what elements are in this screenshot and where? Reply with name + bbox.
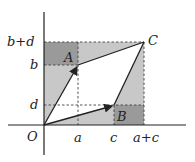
label-B: B	[116, 109, 127, 124]
label-C: C	[148, 33, 158, 48]
y-tick-d: d	[30, 97, 38, 112]
parallelogram-diagram: A B C O b+d b d a c a+c	[0, 0, 195, 162]
y-tick-b-plus-d: b+d	[7, 34, 35, 49]
x-tick-c: c	[110, 130, 118, 145]
label-O: O	[27, 129, 38, 144]
x-tick-a: a	[74, 130, 82, 145]
y-tick-b: b	[30, 57, 38, 72]
x-tick-a-plus-c: a+c	[133, 130, 160, 145]
label-A: A	[63, 50, 73, 65]
